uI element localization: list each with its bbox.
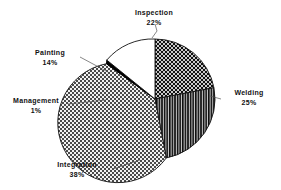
pie-label-painting-name: Painting <box>22 48 78 58</box>
pie-label-welding: Welding 25% <box>222 88 276 108</box>
pie-label-integration-percent: 38% <box>40 170 114 180</box>
pie-label-inspection-name: Inspection <box>118 8 190 18</box>
pie-chart-figure: Inspection 22% Welding 25% Integration 3… <box>0 0 281 190</box>
pie-label-management-percent: 1% <box>2 106 70 116</box>
pie-label-integration-name: Integration <box>40 160 114 170</box>
pie-label-integration: Integration 38% <box>40 160 114 180</box>
pie-label-welding-percent: 25% <box>222 98 276 108</box>
pie-label-management-name: Management <box>2 96 70 106</box>
pie-label-painting-percent: 14% <box>22 58 78 68</box>
pie-label-painting: Painting 14% <box>22 48 78 68</box>
pie-label-welding-name: Welding <box>222 88 276 98</box>
pie-label-inspection-percent: 22% <box>118 18 190 28</box>
pie-label-inspection: Inspection 22% <box>118 8 190 28</box>
pie-label-management: Management 1% <box>2 96 70 116</box>
